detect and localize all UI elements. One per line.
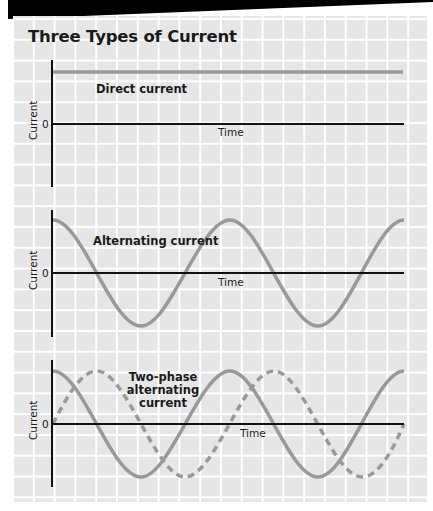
- panel-direct-current: Direct current 0 Time Current: [27, 60, 404, 187]
- panel-label: Direct current: [96, 82, 188, 96]
- time-label: Time: [217, 126, 244, 138]
- panel-alternating-current: Alternating current 0 Time Current: [27, 210, 404, 337]
- zero-label: 0: [42, 267, 49, 279]
- panel-label-line-1: Two-phase: [129, 370, 198, 384]
- zero-label: 0: [42, 418, 49, 430]
- time-label: Time: [217, 276, 244, 288]
- panel-label-line-3: current: [139, 396, 187, 410]
- panel-label: Alternating current: [93, 234, 219, 248]
- current-label: Current: [27, 101, 39, 140]
- current-label: Current: [27, 401, 39, 440]
- zero-label: 0: [42, 118, 49, 130]
- panel-label-line-2: alternating: [127, 383, 199, 397]
- time-label: Time: [239, 427, 266, 439]
- panel-two-phase-current: Two-phase alternating current 0 Time Cur…: [27, 360, 404, 487]
- current-label: Current: [27, 251, 39, 290]
